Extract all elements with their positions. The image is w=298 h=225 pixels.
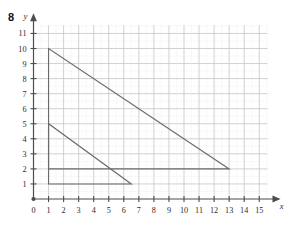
x-tick-label: 15 xyxy=(255,206,263,215)
graph-figure: 8 01234567891011121314151234567891011xy xyxy=(0,0,298,225)
x-tick-label: 2 xyxy=(62,206,66,215)
x-tick-label: 0 xyxy=(31,206,35,215)
y-tick-label: 3 xyxy=(22,150,26,159)
major-gridlines xyxy=(34,25,268,199)
y-tick-label: 10 xyxy=(18,45,26,54)
coordinate-plane: 01234567891011121314151234567891011xy xyxy=(0,0,298,225)
x-tick-label: 8 xyxy=(152,206,156,215)
y-tick-label: 8 xyxy=(22,75,26,84)
x-tick-label: 13 xyxy=(225,206,233,215)
x-tick-label: 10 xyxy=(180,206,188,215)
x-tick-label: 9 xyxy=(167,206,171,215)
minor-gridlines xyxy=(34,25,268,199)
y-tick-label: 4 xyxy=(22,135,26,144)
x-tick-label: 14 xyxy=(240,206,248,215)
y-tick-label: 9 xyxy=(22,60,26,69)
problem-number: 8 xyxy=(8,12,14,23)
y-tick-label: 11 xyxy=(19,29,27,38)
axis-lines xyxy=(30,13,280,202)
y-tick-label: 2 xyxy=(22,165,26,174)
y-tick-label: 1 xyxy=(22,180,26,189)
y-tick-label: 7 xyxy=(22,90,26,99)
x-tick-label: 3 xyxy=(77,206,81,215)
y-tick-label: 6 xyxy=(22,105,26,114)
y-axis-label: y xyxy=(23,11,28,21)
x-tick-label: 5 xyxy=(107,206,111,215)
x-tick-label: 4 xyxy=(92,206,96,215)
x-tick-label: 6 xyxy=(122,206,126,215)
x-tick-label: 1 xyxy=(47,206,51,215)
y-tick-label: 5 xyxy=(22,120,26,129)
x-tick-label: 7 xyxy=(137,206,141,215)
x-axis-label: x xyxy=(279,201,284,211)
x-tick-label: 11 xyxy=(195,206,203,215)
x-tick-label: 12 xyxy=(210,206,218,215)
